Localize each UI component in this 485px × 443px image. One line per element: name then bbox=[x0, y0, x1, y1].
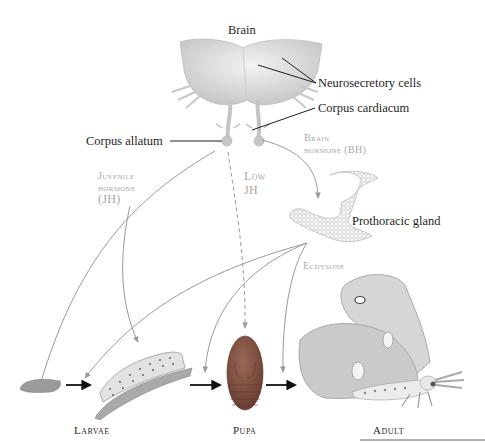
bh-line1: Brain bbox=[304, 132, 366, 144]
label-neurosecretory-cells: Neurosecretory cells bbox=[318, 77, 421, 90]
jh-line1: Juvenile bbox=[98, 170, 136, 182]
label-ecdysone: Ecdysone bbox=[303, 260, 345, 272]
label-prothoracic-gland: Prothoracic gland bbox=[352, 215, 441, 228]
label-larvae: Larvae bbox=[74, 425, 110, 436]
label-brain-hormone: Brain hormone (BH) bbox=[304, 132, 366, 155]
small-larva-illustration bbox=[20, 379, 61, 392]
hormone-arrows bbox=[40, 140, 318, 385]
brain-illustration bbox=[172, 39, 322, 146]
corpus-allatum-organ bbox=[222, 136, 232, 146]
low-jh-line2: JH bbox=[244, 184, 266, 198]
large-larva-illustration bbox=[95, 352, 192, 420]
label-pupa: Pupa bbox=[233, 425, 256, 436]
jh-line3: (JH) bbox=[98, 193, 136, 207]
label-adult: Adult bbox=[373, 425, 404, 436]
prothoracic-gland-illustration bbox=[290, 171, 378, 241]
label-low-jh: Low JH bbox=[244, 170, 266, 198]
pupa-illustration bbox=[227, 336, 263, 410]
adult-moth-illustration bbox=[299, 274, 464, 408]
bh-line2: hormone (BH) bbox=[304, 144, 366, 156]
label-brain: Brain bbox=[228, 24, 256, 37]
label-corpus-cardiacum: Corpus cardiacum bbox=[318, 102, 409, 115]
label-juvenile-hormone: Juvenile hormone (JH) bbox=[98, 170, 136, 207]
low-jh-line1: Low bbox=[244, 170, 266, 184]
label-corpus-allatum: Corpus allatum bbox=[86, 135, 163, 148]
